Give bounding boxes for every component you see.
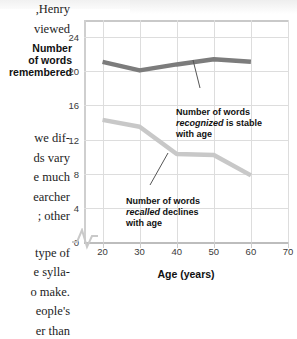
body-line: er than bbox=[0, 322, 74, 339]
x-axis-break-icon bbox=[72, 228, 98, 250]
annotation-recognized-line3: with age bbox=[176, 129, 262, 140]
y-tick-label: 4 bbox=[74, 202, 79, 213]
y-axis-title-line: remembered bbox=[0, 66, 72, 78]
body-line: e sylla- bbox=[0, 263, 74, 283]
y-tick-label: 20 bbox=[68, 66, 79, 77]
x-tick-mark bbox=[288, 242, 289, 248]
annotation-recognized-emphasis: recognized bbox=[176, 118, 224, 128]
y-tick-label: 8 bbox=[74, 168, 79, 179]
annotation-recalled-emphasis: recalled bbox=[126, 207, 160, 217]
scan-artifact-band-secondary bbox=[130, 0, 297, 14]
annotation-recognized-line2-rest: is stable bbox=[224, 118, 263, 128]
body-line: o make. bbox=[0, 283, 74, 303]
y-axis-title-line: Number bbox=[0, 42, 72, 54]
body-line: we dif- bbox=[0, 129, 74, 149]
body-line: ,Henry bbox=[0, 0, 74, 20]
body-line: type of bbox=[0, 244, 74, 264]
annotation-recognized-line1: Number of words bbox=[176, 107, 250, 117]
leader-line-recalled bbox=[150, 153, 168, 185]
y-tick-label: 16 bbox=[68, 100, 79, 111]
body-line: ds vary bbox=[0, 149, 74, 169]
annotation-recalled: Number of words recalled declines with a… bbox=[126, 196, 200, 230]
body-line: viewed bbox=[0, 20, 74, 40]
line-chart: 04812162024 203040506070 Number of words… bbox=[84, 20, 288, 244]
gridline-vertical bbox=[288, 20, 289, 242]
y-axis-title-line: of words bbox=[0, 54, 72, 66]
y-axis-title: Number of words remembered bbox=[0, 42, 72, 79]
x-axis-title: Age (years) bbox=[84, 268, 288, 280]
y-tick-label: 24 bbox=[68, 32, 79, 43]
body-line: e much bbox=[0, 168, 74, 188]
body-line: eople's bbox=[0, 302, 74, 322]
y-tick-label: 12 bbox=[68, 134, 79, 145]
annotation-recalled-line1: Number of words bbox=[126, 196, 200, 206]
annotation-recognized: Number of words recognized is stable wit… bbox=[176, 107, 262, 141]
annotation-recalled-line3: with age bbox=[126, 218, 200, 229]
leader-line-recognized bbox=[193, 60, 200, 88]
body-line: earcher bbox=[0, 188, 74, 208]
annotation-recalled-line2-rest: declines bbox=[160, 207, 199, 217]
body-line: ; other bbox=[0, 207, 74, 227]
